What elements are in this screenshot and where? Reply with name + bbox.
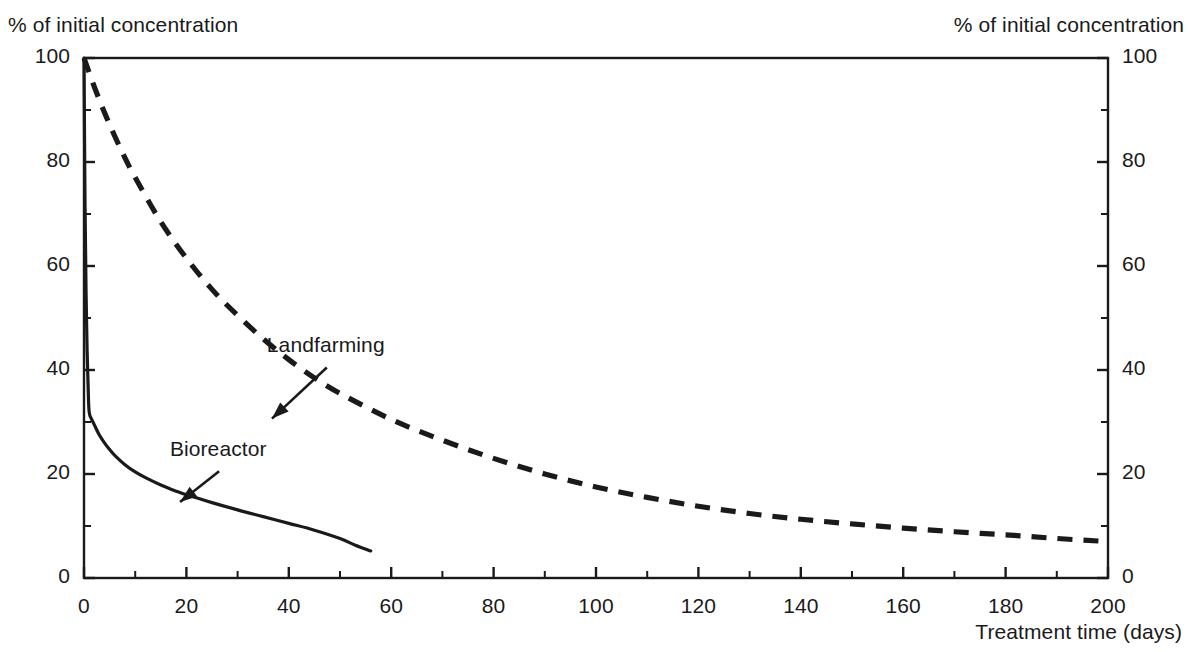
x-tick-label-140: 140 — [783, 594, 818, 618]
x-tick-label-100: 100 — [578, 594, 613, 618]
y-tick-label-right-20: 20 — [1122, 460, 1146, 484]
y-tick-label-left-0: 0 — [58, 564, 70, 588]
x-tick-label-60: 60 — [379, 594, 403, 618]
axes — [84, 58, 1108, 578]
plot-area — [0, 0, 1190, 652]
curve-label-bioreactor: Bioreactor — [170, 437, 267, 461]
y-tick-label-right-40: 40 — [1122, 356, 1146, 380]
x-tick-label-40: 40 — [277, 594, 301, 618]
y-tick-label-right-100: 100 — [1122, 44, 1157, 68]
x-tick-label-160: 160 — [886, 594, 921, 618]
y-tick-label-left-80: 80 — [46, 148, 70, 172]
y-tick-label-right-0: 0 — [1122, 564, 1134, 588]
x-tick-label-180: 180 — [988, 594, 1023, 618]
x-tick-label-80: 80 — [482, 594, 506, 618]
x-axis-title: Treatment time (days) — [975, 620, 1182, 644]
axis-ticks — [84, 58, 1108, 578]
y-tick-label-right-80: 80 — [1122, 148, 1146, 172]
x-tick-label-20: 20 — [175, 594, 199, 618]
data-series — [84, 58, 1108, 551]
chart-figure: % of initial concentration % of initial … — [0, 0, 1190, 652]
curve-label-landfarming: Landfarming — [267, 333, 385, 357]
y-tick-label-left-100: 100 — [35, 44, 70, 68]
y-axis-right-title: % of initial concentration — [954, 13, 1184, 37]
y-tick-label-left-40: 40 — [46, 356, 70, 380]
series-line-landfarming — [84, 58, 1108, 542]
annotation-arrows — [180, 368, 327, 503]
y-tick-label-left-60: 60 — [46, 252, 70, 276]
x-tick-label-200: 200 — [1090, 594, 1125, 618]
x-tick-label-120: 120 — [681, 594, 716, 618]
y-tick-label-left-20: 20 — [46, 460, 70, 484]
y-axis-left-title: % of initial concentration — [8, 13, 238, 37]
x-tick-label-0: 0 — [78, 594, 90, 618]
y-tick-label-right-60: 60 — [1122, 252, 1146, 276]
